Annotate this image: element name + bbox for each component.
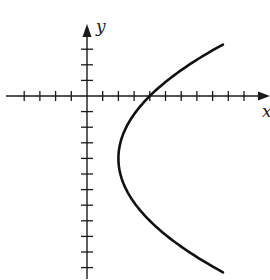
y-axis-label: y [95, 16, 106, 36]
parabola-curve [118, 45, 223, 273]
x-axis [6, 91, 270, 101]
y-axis [81, 24, 93, 279]
y-axis-arrow-icon [83, 24, 92, 37]
x-axis-label: x [262, 101, 270, 121]
coordinate-graph: y x [0, 0, 270, 280]
x-axis-arrow-icon [258, 92, 270, 101]
